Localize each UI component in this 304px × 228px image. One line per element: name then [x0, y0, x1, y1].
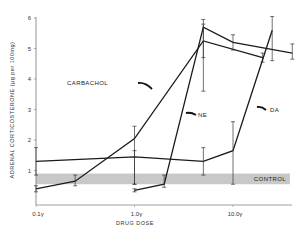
series-label-ne: NE	[198, 112, 207, 118]
series-label-carbachol: CARBACHOL	[67, 80, 108, 86]
control-label: CONTROL	[254, 176, 286, 182]
chart: CONTROL 1234560.1γ1.0γ10.0γDRUG DOSEADRE…	[0, 0, 304, 228]
x-tick-label: 0.1γ	[32, 211, 43, 217]
x-tick-label: 1.0γ	[131, 211, 142, 217]
series-label-da: DA	[270, 107, 279, 113]
x-tick-label: 10.0γ	[228, 211, 243, 217]
x-axis-title: DRUG DOSE	[116, 220, 154, 226]
y-axis-title: ADRENAL CORTICOSTERONE (µg per 100mg)	[9, 42, 15, 179]
